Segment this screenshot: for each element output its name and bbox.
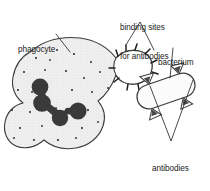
label-antibodies-line-1: antibodies [152,164,192,174]
figure-root: phagocyte binding sites for antibodies b… [0,0,210,191]
label-antibodies: antibodies attached to antigens [152,145,192,191]
label-binding-sites-line-1: binding sites [120,23,168,33]
label-phagocyte-line-1: phagocyte [18,45,55,55]
binding-site-tick [138,84,139,90]
label-phagocyte: phagocyte [18,26,55,74]
binding-site-tick [127,84,128,90]
label-bacterium: bacterium [158,39,194,87]
label-bacterium-line-1: bacterium [158,58,194,68]
binding-site-tick [116,50,118,56]
